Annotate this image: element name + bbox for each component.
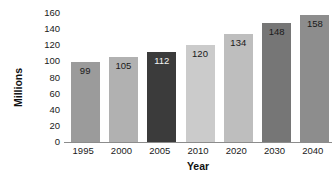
x-tick-label: 2010	[179, 145, 217, 156]
x-axis-line	[64, 142, 332, 143]
x-tick-label: 2000	[102, 145, 140, 156]
bar: 112	[147, 52, 176, 142]
x-tick-label: 2020	[217, 145, 255, 156]
x-tick-label: 2005	[141, 145, 179, 156]
bar: 120	[186, 45, 215, 142]
y-tick-label: 120	[34, 40, 60, 50]
bar-value-label: 120	[186, 48, 215, 59]
x-axis-title: Year	[64, 160, 332, 172]
y-tick-label: 80	[34, 73, 60, 83]
bar-chart: Millions 020406080100120140160 991051121…	[0, 0, 336, 181]
y-tick-label: 20	[34, 121, 60, 131]
bar: 158	[300, 15, 329, 142]
bar: 105	[109, 57, 138, 142]
plot-area: 99105112120134148158	[64, 13, 332, 142]
y-tick-label: 60	[34, 89, 60, 99]
bar: 134	[224, 34, 253, 142]
y-tick-label: 160	[34, 8, 60, 18]
y-tick-label: 0	[34, 137, 60, 147]
bar-value-label: 99	[71, 65, 100, 76]
y-tick-label: 100	[34, 56, 60, 66]
bar-value-label: 148	[262, 26, 291, 37]
x-tick-label: 1995	[64, 145, 102, 156]
y-axis-tick-labels: 020406080100120140160	[30, 13, 60, 142]
bar-value-label: 158	[300, 18, 329, 29]
y-tick-label: 40	[34, 105, 60, 115]
bar-value-label: 112	[147, 55, 176, 66]
bar: 148	[262, 23, 291, 142]
x-tick-label: 2040	[294, 145, 332, 156]
x-tick-label: 2030	[255, 145, 293, 156]
bar: 99	[71, 62, 100, 142]
bar-value-label: 134	[224, 37, 253, 48]
bar-value-label: 105	[109, 60, 138, 71]
y-axis-title: Millions	[10, 52, 26, 122]
y-tick-label: 140	[34, 24, 60, 34]
